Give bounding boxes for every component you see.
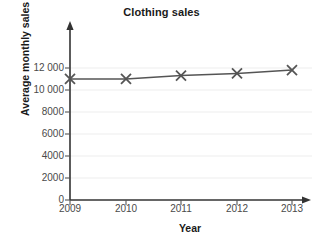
plot-area [0,0,323,245]
clothing-sales-chart: Clothing sales Average monthly sales (£)… [0,0,323,245]
x-axis-arrow [302,196,311,203]
y-axis-arrow [66,21,73,30]
gridlines [70,68,312,178]
